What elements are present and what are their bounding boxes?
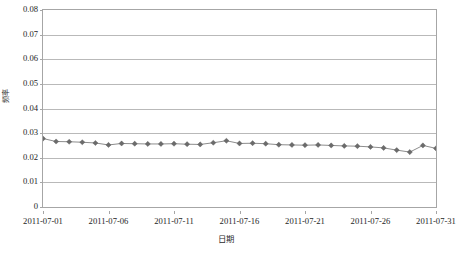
- x-tick-label: 2011-07-31: [393, 216, 460, 226]
- data-point-marker: [342, 143, 347, 148]
- gridline: [43, 35, 436, 36]
- data-point-marker: [211, 140, 216, 145]
- data-point-marker: [93, 140, 98, 145]
- y-tickmark: [40, 182, 43, 183]
- x-tickmark: [371, 211, 372, 214]
- data-point-marker: [329, 143, 334, 148]
- gridline: [43, 84, 436, 85]
- y-tick-label: 0.05: [4, 79, 38, 88]
- y-tickmark: [40, 59, 43, 60]
- x-tickmark: [240, 211, 241, 214]
- data-point-marker: [54, 139, 59, 144]
- y-tickmark: [40, 35, 43, 36]
- data-point-marker: [119, 141, 124, 146]
- data-point-marker: [185, 142, 190, 147]
- y-tickmark: [40, 207, 43, 208]
- data-point-marker: [237, 141, 242, 146]
- gridline: [43, 133, 436, 134]
- data-point-marker: [67, 139, 72, 144]
- data-point-marker: [302, 143, 307, 148]
- gridline: [43, 182, 436, 183]
- y-tick-label: 0: [4, 202, 38, 211]
- data-point-marker: [316, 142, 321, 147]
- data-point-marker: [407, 149, 412, 154]
- data-point-marker: [381, 145, 386, 150]
- data-point-marker: [132, 141, 137, 146]
- y-tick-label: 0.08: [4, 5, 38, 14]
- data-point-marker: [106, 142, 111, 147]
- data-point-marker: [80, 140, 85, 145]
- data-point-marker: [224, 138, 229, 143]
- data-point-marker: [355, 144, 360, 149]
- x-axis-title: 日期: [0, 232, 451, 244]
- x-tickmark: [305, 211, 306, 214]
- y-tickmark: [40, 84, 43, 85]
- data-point-marker: [289, 142, 294, 147]
- x-tickmark: [174, 211, 175, 214]
- data-point-marker: [276, 142, 281, 147]
- y-tickmark: [40, 158, 43, 159]
- x-tickmark: [436, 211, 437, 214]
- x-axis-tick-labels: 2011-07-012011-07-062011-07-112011-07-16…: [0, 211, 451, 233]
- data-point-marker: [198, 142, 203, 147]
- data-point-marker: [145, 141, 150, 146]
- y-tick-label: 0.04: [4, 104, 38, 113]
- gridline: [43, 158, 436, 159]
- y-tickmark: [40, 133, 43, 134]
- data-point-marker: [420, 143, 425, 148]
- plot-area: [42, 9, 437, 208]
- y-tickmark: [40, 10, 43, 11]
- y-tick-label: 0.02: [4, 153, 38, 162]
- data-point-marker: [433, 146, 436, 151]
- y-tick-label: 0.01: [4, 177, 38, 186]
- gridline: [43, 59, 436, 60]
- data-point-marker: [43, 136, 46, 141]
- data-point-marker: [263, 141, 268, 146]
- gridline: [43, 109, 436, 110]
- data-point-marker: [250, 141, 255, 146]
- y-tick-label: 0.03: [4, 128, 38, 137]
- y-tick-label: 0.06: [4, 54, 38, 63]
- data-point-marker: [171, 141, 176, 146]
- y-tick-label: 0.07: [4, 30, 38, 39]
- x-tickmark: [43, 211, 44, 214]
- y-tickmark: [40, 109, 43, 110]
- data-point-marker: [394, 148, 399, 153]
- x-tickmark: [109, 211, 110, 214]
- data-point-marker: [368, 144, 373, 149]
- data-point-marker: [158, 141, 163, 146]
